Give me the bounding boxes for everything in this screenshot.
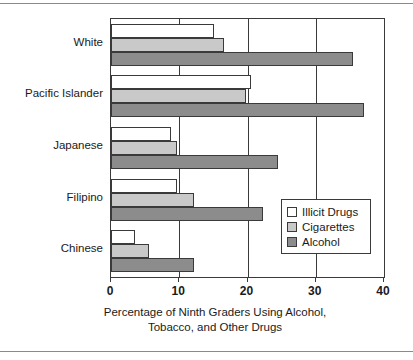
bar-cigs-japanese [111, 141, 177, 155]
x-tick-label-30: 30 [295, 284, 335, 298]
bar-alcohol-filipino [111, 207, 263, 221]
bar-cigs-chinese [111, 244, 149, 258]
y-axis-label-filipino: Filipino [0, 191, 103, 203]
y-axis-category-labels: WhitePacific IslanderJapaneseFilipinoChi… [0, 18, 103, 276]
y-axis-label-japanese: Japanese [0, 139, 103, 151]
bottom-divider-rule [0, 351, 413, 352]
legend-item-illicit-drugs: Illicit Drugs [287, 204, 365, 219]
bar-illicit-chinese [111, 230, 135, 244]
bar-alcohol-pacific-islander [111, 103, 364, 117]
bar-alcohol-white [111, 52, 353, 66]
x-tick-label-10: 10 [158, 284, 198, 298]
legend-item-alcohol: Alcohol [287, 234, 365, 249]
x-tick-40 [383, 277, 384, 282]
y-axis-label-white: White [0, 36, 103, 48]
bar-illicit-japanese [111, 127, 171, 141]
legend-swatch-illicit-drugs-icon [287, 207, 297, 217]
bar-alcohol-chinese [111, 258, 194, 272]
bar-group-pacific-islander [111, 71, 384, 123]
x-tick-30 [315, 277, 316, 282]
legend-swatch-cigarettes-icon [287, 222, 297, 232]
top-divider-rule [0, 3, 413, 4]
x-tick-10 [178, 277, 179, 282]
legend-item-cigarettes: Cigarettes [287, 219, 365, 234]
x-axis-title-line-1: Percentage of Ninth Graders Using Alcoho… [60, 305, 370, 320]
bar-illicit-white [111, 24, 214, 38]
chart-figure: WhitePacific IslanderJapaneseFilipinoChi… [0, 0, 413, 360]
bar-group-japanese [111, 122, 384, 174]
y-axis-label-chinese: Chinese [0, 242, 103, 254]
bar-cigs-white [111, 38, 224, 52]
x-tick-label-40: 40 [363, 284, 403, 298]
y-axis-label-pacific-islander: Pacific Islander [0, 87, 103, 99]
x-tick-label-0: 0 [90, 284, 130, 298]
x-tick-20 [247, 277, 248, 282]
x-tick-0 [110, 277, 111, 282]
legend-label-illicit-drugs: Illicit Drugs [302, 206, 358, 218]
bar-cigs-filipino [111, 193, 194, 207]
legend-swatch-alcohol-icon [287, 237, 297, 247]
bar-group-white [111, 19, 384, 71]
x-axis-title: Percentage of Ninth Graders Using Alcoho… [60, 305, 370, 335]
bar-cigs-pacific-islander [111, 89, 246, 103]
legend-label-alcohol: Alcohol [302, 236, 340, 248]
bar-alcohol-japanese [111, 155, 278, 169]
legend-label-cigarettes: Cigarettes [302, 221, 354, 233]
x-tick-label-20: 20 [227, 284, 267, 298]
bar-illicit-filipino [111, 179, 177, 193]
chart-legend: Illicit Drugs Cigarettes Alcohol [281, 199, 371, 254]
x-axis-title-line-2: Tobacco, and Other Drugs [60, 320, 370, 335]
bar-illicit-pacific-islander [111, 75, 251, 89]
